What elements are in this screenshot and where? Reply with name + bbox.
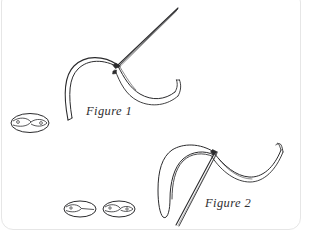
- cross-section-glyph-2: [64, 201, 96, 217]
- cross-section-glyph-3: [103, 201, 135, 217]
- figure-2-label: Figure 2: [205, 196, 251, 211]
- illustration-canvas: [0, 0, 313, 238]
- figure-2-drawing: [158, 143, 283, 226]
- figure-1-label: Figure 1: [86, 104, 132, 119]
- cross-section-glyph-1: [11, 114, 49, 133]
- thread-ribbon-right-icon: [212, 143, 283, 182]
- needle-through-loop-icon: [176, 152, 217, 226]
- needle-shaft-icon: [118, 8, 178, 68]
- thread-ribbon-icon: [115, 66, 181, 105]
- illustration-page: Figure 1 Figure 2: [0, 0, 313, 238]
